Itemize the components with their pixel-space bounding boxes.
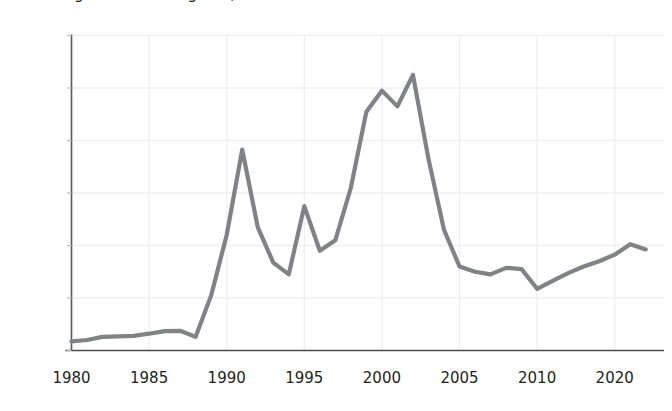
x-axis-tick-labels: 19801985199019952000200520102020 bbox=[0, 0, 672, 411]
x-axis-tick-label: 1995 bbox=[285, 371, 323, 386]
x-axis-tick-label: 1980 bbox=[52, 371, 90, 386]
x-axis-tick-label: 1990 bbox=[208, 371, 246, 386]
x-axis-tick-label: 2005 bbox=[440, 371, 478, 386]
line-chart: Figure: Annual figures, 1980 to 2021 120… bbox=[0, 0, 672, 411]
x-axis-tick-label: 2000 bbox=[363, 371, 401, 386]
x-axis-tick-label: 2010 bbox=[518, 371, 556, 386]
x-axis-tick-label: 2020 bbox=[596, 371, 634, 386]
x-axis-tick-label: 1985 bbox=[130, 371, 168, 386]
